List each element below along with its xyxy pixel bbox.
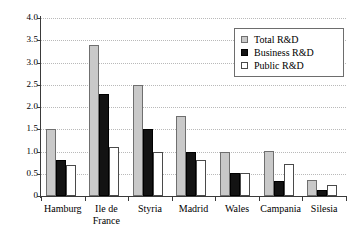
- bar: [220, 152, 230, 197]
- bar: [196, 160, 206, 196]
- bar: [230, 173, 240, 196]
- x-tick-mark: [215, 196, 216, 201]
- legend-item: Public R&D: [241, 59, 338, 72]
- x-tick-mark: [128, 196, 129, 201]
- x-tick-mark: [41, 196, 42, 201]
- x-tick-mark: [172, 196, 173, 201]
- x-tick-mark: [302, 196, 303, 201]
- legend-swatch-public-icon: [241, 62, 248, 69]
- bar: [274, 181, 284, 196]
- x-axis-line: [40, 196, 346, 197]
- legend-item: Business R&D: [241, 46, 338, 59]
- legend-swatch-business-icon: [241, 49, 248, 56]
- bar-chart: 00.51.01.52.02.53.03.54.0 HamburgIle de …: [0, 0, 351, 242]
- legend: Total R&D Business R&D Public R&D: [234, 28, 344, 77]
- y-tick-label: 2.5: [2, 80, 38, 89]
- x-tick-label: Silesia: [296, 203, 351, 215]
- bar: [284, 164, 294, 196]
- bar: [56, 160, 66, 196]
- y-axis-line: [40, 16, 41, 198]
- x-tick-mark: [85, 196, 86, 201]
- bar: [264, 151, 274, 196]
- bar: [153, 152, 163, 197]
- x-tick-mark: [259, 196, 260, 201]
- bar: [66, 165, 76, 196]
- y-tick-label: 3.5: [2, 35, 38, 44]
- legend-swatch-total-icon: [241, 36, 248, 43]
- bar: [307, 180, 317, 196]
- bar-group: [128, 18, 172, 196]
- legend-label-business: Business R&D: [254, 48, 314, 58]
- legend-label-public: Public R&D: [254, 61, 304, 71]
- bar: [176, 116, 186, 196]
- bar: [46, 129, 56, 196]
- bar: [327, 185, 337, 196]
- y-tick-label: 0.5: [2, 169, 38, 178]
- bar-group: [85, 18, 129, 196]
- bar: [89, 45, 99, 196]
- bar: [240, 173, 250, 196]
- bar: [143, 129, 153, 196]
- bar: [133, 85, 143, 196]
- bar: [186, 152, 196, 197]
- x-tick-mark: [346, 196, 347, 201]
- y-tick-label: 4.0: [2, 13, 38, 22]
- bar: [109, 147, 119, 196]
- bar-group: [41, 18, 85, 196]
- bar: [99, 94, 109, 196]
- y-tick-label: 3.0: [2, 58, 38, 67]
- y-tick-label: 1.0: [2, 147, 38, 156]
- y-axis-labels: 00.51.01.52.02.53.03.54.0: [0, 0, 38, 242]
- y-tick-label: 0: [2, 191, 38, 200]
- bar-group: [172, 18, 216, 196]
- y-tick-label: 2.0: [2, 102, 38, 111]
- legend-label-total: Total R&D: [254, 35, 299, 45]
- legend-item: Total R&D: [241, 33, 338, 46]
- y-tick-label: 1.5: [2, 124, 38, 133]
